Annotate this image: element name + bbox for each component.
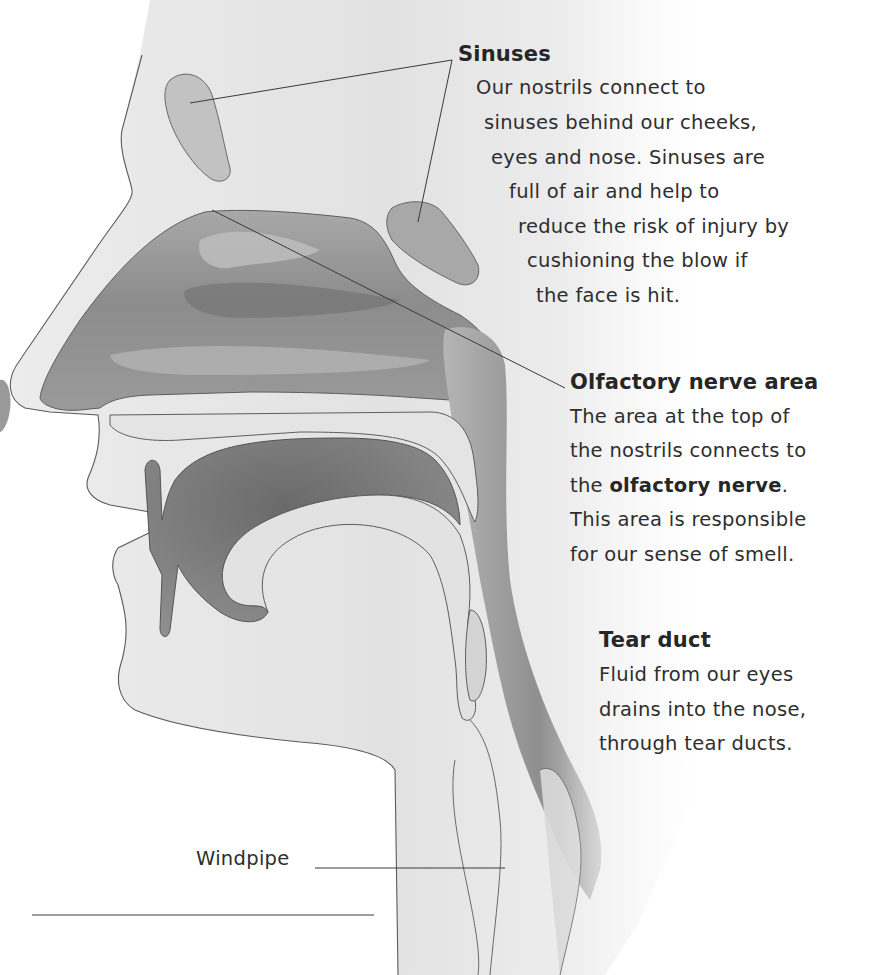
olfactory-text-line-1: The area at the top of [570, 405, 790, 428]
sinuses-text-line-1: Our nostrils connect to [476, 76, 706, 99]
windpipe-label: Windpipe [196, 847, 290, 870]
olfactory-nerve-term: olfactory nerve [609, 474, 781, 497]
olfactory-text-line-5: for our sense of smell. [570, 543, 794, 566]
olfactory-text-line-2: the nostrils connects to [570, 439, 806, 462]
tear-duct-text-line-1: Fluid from our eyes [599, 663, 793, 686]
olfactory-text-line-4: This area is responsible [570, 508, 807, 531]
olfactory-text-period: . [782, 474, 789, 497]
nostril-shadow [0, 380, 11, 432]
tear-duct-text-line-3: through tear ducts. [599, 732, 793, 755]
sinuses-text-line-2: sinuses behind our cheeks, [484, 111, 757, 134]
sinuses-text-line-6: cushioning the blow if [527, 249, 748, 272]
sinuses-text-line-3: eyes and nose. Sinuses are [491, 146, 765, 169]
tear-duct-text-line-2: drains into the nose, [599, 698, 806, 721]
olfactory-text-line-3: the olfactory nerve. [570, 474, 788, 497]
tear-duct-title: Tear duct [599, 628, 711, 652]
sinuses-title: Sinuses [458, 42, 551, 66]
sinuses-text-line-5: reduce the risk of injury by [518, 215, 789, 238]
olfactory-text-the: the [570, 474, 603, 497]
olfactory-title: Olfactory nerve area [570, 370, 818, 394]
sinuses-text-line-7: the face is hit. [536, 284, 680, 307]
sinuses-text-line-4: full of air and help to [509, 180, 720, 203]
